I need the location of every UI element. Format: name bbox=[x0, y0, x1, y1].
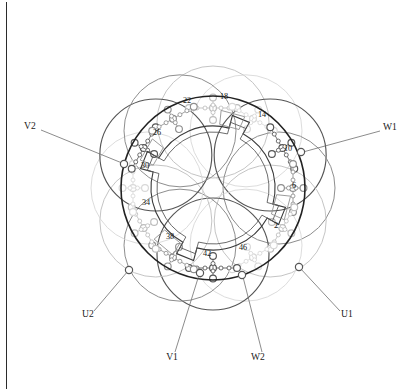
conductor-node-small bbox=[284, 153, 288, 157]
conductor-node-large bbox=[290, 161, 297, 168]
conductor-node-small bbox=[203, 266, 207, 270]
conductor-node-small bbox=[164, 251, 168, 255]
conductor-node-small bbox=[139, 145, 143, 149]
leader-line-w1 bbox=[303, 131, 380, 152]
conductor-node-small bbox=[288, 212, 292, 216]
conductor-node-large bbox=[229, 103, 236, 110]
conductor-node-small bbox=[136, 186, 140, 190]
conductor-node-small bbox=[138, 219, 142, 223]
terminal-label-u1: U1 bbox=[341, 308, 353, 319]
conductor-node-large bbox=[142, 185, 149, 192]
conductor-node-large bbox=[210, 275, 217, 282]
conductor-node-small bbox=[287, 186, 291, 190]
terminal-label-v1: V1 bbox=[166, 351, 178, 362]
terminal-node-v1 bbox=[196, 269, 203, 276]
conductor-node-small bbox=[253, 114, 257, 118]
conductor-node-small bbox=[237, 109, 241, 113]
slot-number-label: 6 bbox=[292, 181, 296, 190]
terminal-label-w2: W2 bbox=[251, 351, 265, 362]
terminal-node-w1 bbox=[297, 148, 304, 155]
terminal-label-w1: W1 bbox=[383, 121, 397, 132]
leader-line-v1 bbox=[175, 275, 199, 352]
slot-number-label: 22 bbox=[183, 96, 191, 105]
conductor-node-small bbox=[173, 121, 177, 125]
conductor-node-small bbox=[227, 266, 231, 270]
conductor-node-large bbox=[270, 242, 277, 249]
conductor-node-small bbox=[138, 153, 142, 157]
slot-number-label: 14 bbox=[258, 110, 266, 119]
conductor-node-small bbox=[185, 109, 189, 113]
conductor-node-small bbox=[131, 178, 135, 182]
slot-number-labels: 2610141822263034384246 bbox=[141, 92, 296, 258]
conductor-node-small bbox=[170, 114, 174, 118]
conductor-node-small bbox=[219, 266, 223, 270]
slot-number-label: 10 bbox=[284, 144, 292, 153]
conductor-node-large bbox=[210, 117, 217, 124]
conductor-node-small bbox=[291, 170, 295, 174]
conductor-node-large bbox=[119, 185, 126, 192]
conductor-node-small bbox=[131, 202, 135, 206]
terminal-node-w2 bbox=[238, 271, 245, 278]
conductor-node-small bbox=[244, 259, 248, 263]
figure-page: 2610141822263034384246 V2W1U2U1V1W2 bbox=[0, 0, 416, 391]
conductor-node-small bbox=[258, 251, 262, 255]
conductor-node-small bbox=[150, 240, 154, 244]
conductor-node-small bbox=[284, 219, 288, 223]
terminal-node-u2 bbox=[125, 266, 132, 273]
conductor-node-small bbox=[211, 103, 215, 107]
conductor-node-small bbox=[211, 262, 215, 266]
conductor-node-small bbox=[178, 113, 182, 117]
conductor-node-small bbox=[253, 258, 257, 262]
slot-number-label: 38 bbox=[166, 232, 174, 241]
conductor-node-small bbox=[283, 228, 287, 232]
conductor-node-large bbox=[151, 219, 158, 226]
conductor-node-small bbox=[219, 106, 223, 110]
conductor-node-small bbox=[128, 186, 132, 190]
conductor-node-small bbox=[276, 233, 280, 237]
stator-winding-diagram: 2610141822263034384246 V2W1U2U1V1W2 bbox=[0, 0, 416, 391]
slot-number-label: 26 bbox=[153, 128, 161, 137]
conductor-node-small bbox=[178, 259, 182, 263]
conductor-node-small bbox=[244, 113, 248, 117]
conductor-chains bbox=[119, 94, 307, 282]
slot-number-label: 30 bbox=[141, 161, 149, 170]
conductor-node-large bbox=[268, 151, 275, 158]
conductor-node-large bbox=[176, 126, 183, 133]
conductor-node-large bbox=[210, 94, 217, 101]
conductor-node-large bbox=[190, 103, 197, 110]
conductor-node-large bbox=[152, 245, 159, 252]
conductor-node-small bbox=[276, 148, 280, 152]
conductor-node-small bbox=[146, 233, 150, 237]
conductor-node-small bbox=[131, 194, 135, 198]
conductor-node-small bbox=[185, 263, 189, 267]
conductor-node-large bbox=[128, 165, 135, 172]
stator-bore-outline bbox=[141, 116, 286, 261]
conductor-node-large bbox=[267, 124, 274, 131]
conductor-node-small bbox=[134, 160, 138, 164]
conductor-node-small bbox=[291, 194, 295, 198]
conductor-node-small bbox=[146, 139, 150, 143]
conductor-node-small bbox=[146, 224, 150, 228]
slot-number-label: 42 bbox=[203, 249, 211, 258]
slot-number-label: 34 bbox=[142, 198, 150, 207]
conductor-node-large bbox=[291, 204, 298, 211]
slot-number-label: 46 bbox=[239, 243, 247, 252]
terminal-label-u2: U2 bbox=[82, 308, 94, 319]
conductor-node-large bbox=[300, 185, 307, 192]
conductor-node-small bbox=[272, 132, 276, 136]
slot-number-label: 18 bbox=[220, 92, 228, 101]
terminal-label-v2: V2 bbox=[24, 120, 36, 131]
conductor-node-small bbox=[258, 121, 262, 125]
conductor-node-small bbox=[164, 121, 168, 125]
terminal-node-v2 bbox=[120, 160, 127, 167]
conductor-node-small bbox=[249, 251, 253, 255]
terminal-labels: V2W1U2U1V1W2 bbox=[24, 120, 397, 362]
conductor-node-small bbox=[211, 269, 215, 273]
conductor-node-large bbox=[234, 265, 241, 272]
conductor-node-small bbox=[211, 111, 215, 115]
conductor-node-small bbox=[276, 139, 280, 143]
leader-line-w2 bbox=[243, 277, 262, 352]
leader-line-u2 bbox=[94, 271, 128, 311]
conductor-node-large bbox=[130, 209, 137, 216]
conductor-node-small bbox=[170, 258, 174, 262]
